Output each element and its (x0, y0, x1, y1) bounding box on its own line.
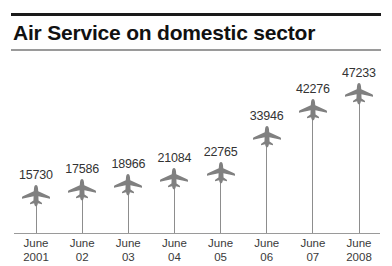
x-axis-tick-label: June2001 (23, 237, 49, 264)
airplane-icon (252, 125, 282, 151)
x-axis-line (14, 233, 380, 234)
data-point-stem (359, 101, 360, 233)
x-tick-line2: 04 (162, 251, 187, 265)
x-tick-line2: 02 (70, 251, 95, 265)
data-point-stem (266, 144, 267, 233)
x-tick-line1: June (24, 237, 49, 249)
data-value-label: 15730 (19, 168, 53, 182)
x-tick-line2: 05 (208, 251, 233, 265)
x-axis-tick-label: June07 (300, 237, 325, 264)
data-point-stem (220, 180, 221, 233)
data-point-stem (174, 186, 175, 233)
x-axis-tick-label: June04 (162, 237, 187, 264)
x-tick-line2: 03 (116, 251, 141, 265)
data-point-stem (312, 117, 313, 233)
data-value-label: 22765 (204, 145, 238, 159)
x-tick-line1: June (208, 237, 233, 249)
data-value-label: 47233 (342, 66, 376, 80)
airplane-icon (21, 184, 51, 210)
airplane-icon (298, 98, 328, 124)
airplane-icon (159, 167, 189, 193)
x-tick-line1: June (254, 237, 279, 249)
page-title: Air Service on domestic sector (13, 19, 379, 47)
data-value-label: 42276 (296, 82, 330, 96)
data-value-label: 21084 (158, 151, 192, 165)
data-value-label: 17586 (65, 162, 99, 176)
x-axis-tick-label: June06 (254, 237, 279, 264)
data-value-label: 18966 (111, 157, 145, 171)
data-value-label: 33946 (250, 109, 284, 123)
x-tick-line2: 2008 (346, 251, 372, 265)
x-tick-line1: June (70, 237, 95, 249)
x-tick-line1: June (347, 237, 372, 249)
airplane-icon (206, 161, 236, 187)
x-tick-line2: 07 (300, 251, 325, 265)
x-axis-tick-label: June2008 (346, 237, 372, 264)
airplane-icon (67, 178, 97, 204)
plot-area: 1573017586189662108422765339464227647233… (0, 55, 392, 266)
airplane-icon (344, 82, 374, 108)
x-axis-tick-label: June03 (116, 237, 141, 264)
x-axis-tick-label: June02 (70, 237, 95, 264)
x-tick-line1: June (116, 237, 141, 249)
title-rule-bottom (11, 49, 381, 51)
chart-container: Air Service on domestic sector 157301758… (0, 0, 392, 266)
x-tick-line1: June (162, 237, 187, 249)
x-axis-tick-label: June05 (208, 237, 233, 264)
x-tick-line1: June (300, 237, 325, 249)
x-tick-line2: 2001 (23, 251, 49, 265)
title-rule-top (11, 13, 381, 16)
x-tick-line2: 06 (254, 251, 279, 265)
airplane-icon (113, 173, 143, 199)
